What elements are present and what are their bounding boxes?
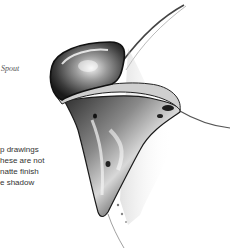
caption-line: e shadow [0, 177, 44, 188]
spout-label: Spout [0, 64, 19, 73]
upper-stroke [122, 5, 184, 62]
spout-illustration [0, 0, 234, 252]
right-stroke [178, 110, 230, 128]
caption-line: hese are not [0, 155, 44, 166]
caption-line: natte finish [0, 166, 44, 177]
caption-line: p drawings [0, 144, 44, 155]
caption-text: p drawings hese are not natte finish e s… [0, 144, 44, 188]
